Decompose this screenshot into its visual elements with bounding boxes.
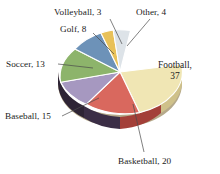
pie-chart: Volleyball, 3 Other, 4 Golf, 8 Soccer, 1… [0,0,220,174]
slice-label-golf: Golf, 8 [60,24,86,34]
slice-label-soccer: Soccer, 13 [6,59,45,69]
slice-label-football: Football, 37 [148,60,202,81]
slice-label-other: Other, 4 [136,7,166,17]
slice-label-baseball: Baseball, 15 [5,111,51,121]
slice-label-football-line1: Football, [158,60,192,70]
slice-label-football-line2: 37 [170,71,179,81]
slice-label-basketball: Basketball, 20 [118,156,171,166]
slice-label-volleyball: Volleyball, 3 [54,7,101,17]
pie-chart-graphic [0,0,220,174]
